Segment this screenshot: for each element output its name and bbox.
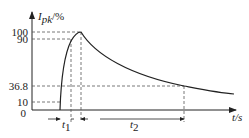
- t2-label: t2: [130, 118, 139, 133]
- t1-label: t1: [62, 118, 71, 133]
- origin-label: 0: [21, 107, 27, 119]
- pulse-current-diagram: 100 90 36.8 10 0 Ipk/% t/s t1 t2: [0, 0, 249, 138]
- x-axis-label: t/s: [232, 111, 242, 123]
- tick-36-8: 36.8: [9, 80, 29, 92]
- tick-90: 90: [17, 33, 29, 45]
- reference-lines: [32, 32, 184, 122]
- y-axis-label: Ipk/%: [37, 10, 64, 25]
- current-curve: [60, 32, 234, 110]
